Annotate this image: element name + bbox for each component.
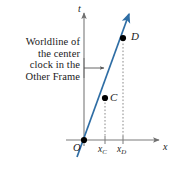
tick-label-xd: xD: [117, 145, 126, 156]
point-c: [102, 95, 108, 101]
origin-label: O: [73, 143, 81, 154]
worldline: [77, 14, 129, 157]
caption-line-2: the center: [0, 48, 80, 60]
caption-line-1: Worldline of: [0, 36, 80, 48]
caption-line-4: Other Frame: [0, 71, 80, 83]
point-d-label: D: [131, 31, 139, 42]
worldline-caption: Worldline of the center clock in the Oth…: [0, 36, 80, 82]
tick-label-xc: xC: [98, 145, 107, 156]
tick-label-xc-sub: C: [102, 148, 107, 155]
point-o: [81, 137, 87, 143]
caption-line-3: clock in the: [0, 59, 80, 71]
spacetime-diagram-figure: Worldline of the center clock in the Oth…: [0, 0, 175, 173]
time-axis-label: t: [78, 4, 81, 14]
space-axis-label: x: [163, 142, 167, 152]
diagram-canvas: [0, 0, 175, 173]
point-d: [120, 35, 126, 41]
point-c-label: C: [110, 92, 117, 103]
tick-label-xd-sub: D: [121, 148, 126, 155]
